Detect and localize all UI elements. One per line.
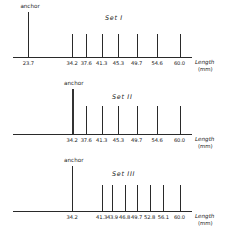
axis-name-label: Length — [195, 213, 214, 219]
set-title: Set II — [112, 93, 133, 101]
tick-label: 60.0 — [174, 60, 185, 66]
tick-mark — [163, 185, 164, 211]
axis-line — [13, 57, 192, 58]
axis-line — [13, 134, 192, 135]
anchor-tick-mark — [72, 89, 74, 134]
tick-mark — [102, 106, 103, 134]
axis-line — [13, 211, 192, 212]
tick-label: 45.3 — [113, 137, 124, 143]
tick-label: 34.2 — [67, 137, 78, 143]
tick-label: 49.7 — [131, 214, 142, 220]
tick-mark — [72, 34, 73, 57]
tick-mark — [137, 106, 138, 134]
tick-label: 34.2 — [67, 214, 78, 220]
tick-label: 49.7 — [131, 60, 142, 66]
tick-mark — [157, 106, 158, 134]
tick-label: 60.0 — [174, 137, 185, 143]
tick-mark — [125, 185, 126, 211]
tick-mark — [86, 34, 87, 57]
tick-mark — [112, 185, 113, 211]
tick-label: 37.6 — [81, 137, 92, 143]
tick-mark — [86, 106, 87, 134]
tick-label: 54.6 — [151, 137, 162, 143]
chart-panel-set-2: 34.237.641.345.349.754.660.0anchorSet II… — [0, 77, 228, 155]
tick-label: 49.7 — [131, 137, 142, 143]
ladder-plot-set-3: 34.241.343.946.849.752.856.160.0anchorSe… — [0, 154, 228, 232]
tick-label: 45.3 — [113, 60, 124, 66]
anchor-label: anchor — [64, 157, 83, 163]
anchor-label: anchor — [20, 3, 39, 9]
tick-label: 43.9 — [107, 214, 118, 220]
axis-unit-label: (mm) — [198, 143, 213, 149]
tick-label: 54.6 — [151, 60, 162, 66]
tick-mark — [180, 34, 181, 57]
tick-mark — [180, 106, 181, 134]
tick-mark — [102, 185, 103, 211]
tick-label: 52.8 — [144, 214, 155, 220]
tick-label: 23.7 — [23, 60, 34, 66]
set-title: Set I — [105, 14, 123, 22]
ladder-plot-set-2: 34.237.641.345.349.754.660.0anchorSet II… — [0, 77, 228, 155]
tick-label: 46.8 — [119, 214, 130, 220]
ladder-plot-set-1: 23.734.237.641.345.349.754.660.0anchorSe… — [0, 0, 228, 78]
axis-unit-label: (mm) — [198, 220, 213, 226]
tick-mark — [102, 34, 103, 57]
tick-mark — [137, 34, 138, 57]
tick-label: 34.2 — [67, 60, 78, 66]
anchor-label: anchor — [64, 80, 83, 86]
chart-panel-set-3: 34.241.343.946.849.752.856.160.0anchorSe… — [0, 154, 228, 232]
tick-label: 60.0 — [174, 214, 185, 220]
tick-label: 56.1 — [158, 214, 169, 220]
tick-mark — [157, 34, 158, 57]
tick-label: 41.3 — [96, 137, 107, 143]
axis-name-label: Length — [195, 59, 214, 65]
tick-label: 37.6 — [81, 60, 92, 66]
tick-label: 41.3 — [96, 214, 107, 220]
tick-mark — [118, 34, 119, 57]
tick-mark — [137, 185, 138, 211]
tick-mark — [150, 185, 151, 211]
chart-panel-set-1: 23.734.237.641.345.349.754.660.0anchorSe… — [0, 0, 228, 78]
tick-mark — [180, 185, 181, 211]
anchor-tick-mark — [28, 12, 29, 57]
axis-unit-label: (mm) — [198, 66, 213, 72]
axis-name-label: Length — [195, 136, 214, 142]
anchor-tick-mark — [72, 166, 73, 211]
set-title: Set III — [112, 170, 135, 178]
tick-mark — [118, 106, 119, 134]
tick-label: 41.3 — [96, 60, 107, 66]
